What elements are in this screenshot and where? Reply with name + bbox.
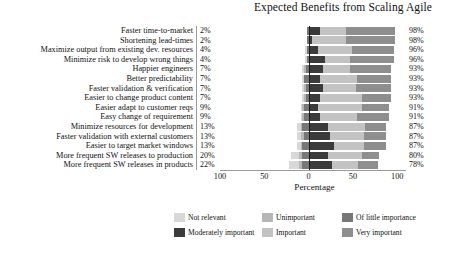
positive-total-label: 87% (405, 141, 461, 151)
chart-row: Easier adapt to customer reqs9%91% (0, 103, 461, 113)
plot-cell (220, 64, 405, 74)
bar-segment (350, 65, 391, 73)
zero-axis-line (309, 36, 310, 46)
legend-label: Of little importance (356, 213, 416, 222)
bar-segment (312, 36, 346, 44)
plot-cell (220, 26, 405, 36)
x-axis-tick: 100 (214, 172, 226, 181)
bar-segment (346, 36, 396, 44)
zero-axis-line (309, 132, 310, 142)
negative-total-label: 13% (196, 122, 220, 132)
category-label: Faster validation & verification (0, 84, 196, 94)
bar-segment (318, 46, 352, 54)
legend-label: Moderately important (188, 228, 254, 237)
legend-swatch (262, 213, 273, 222)
chart-row: Faster validation & verification7%93% (0, 84, 461, 94)
chart-row: More frequent SW releases in products22%… (0, 160, 461, 170)
bar-segment (320, 27, 346, 35)
zero-axis-line (309, 103, 310, 113)
positive-total-label: 96% (405, 55, 461, 65)
chart-legend: Not relevantUnimportantOf little importa… (174, 210, 442, 240)
negative-total-label: 4% (196, 55, 220, 65)
legend-item: Not relevant (174, 213, 262, 222)
plot-cell (220, 112, 405, 122)
legend-swatch (342, 228, 353, 237)
plot-cell (220, 55, 405, 65)
negative-total-label: 2% (196, 36, 220, 46)
bar-segment (362, 104, 389, 112)
negative-total-label: 2% (196, 26, 220, 36)
plot-cell (220, 74, 405, 84)
positive-total-label: 87% (405, 132, 461, 142)
plot-cell (220, 141, 405, 151)
category-label: Faster validation with external customer… (0, 132, 196, 142)
plot-cell (220, 160, 405, 170)
category-label: Happier engineers (0, 64, 196, 74)
stacked-bar (305, 56, 394, 64)
bar-segment (309, 123, 328, 131)
bar-segment (309, 94, 321, 102)
category-label: Easier adapt to customer reqs (0, 103, 196, 113)
negative-total-label: 7% (196, 93, 220, 103)
chart-row: Easier to target market windows13%87% (0, 141, 461, 151)
plot-cell (220, 45, 405, 55)
bar-segment (309, 142, 335, 150)
legend-swatch (342, 213, 353, 222)
legend-label: Unimportant (276, 213, 315, 222)
category-label: Easier to target market windows (0, 141, 196, 151)
chart-row: Easy change of requirement9%91% (0, 112, 461, 122)
positive-total-label: 87% (405, 122, 461, 132)
plot-cell (220, 84, 405, 94)
bar-segment (309, 75, 321, 83)
stacked-bar (297, 142, 386, 150)
zero-axis-line (309, 122, 310, 132)
stacked-bar (302, 75, 391, 83)
bar-segment (357, 113, 389, 121)
zero-axis-line (309, 84, 310, 94)
category-label: Shortening lead-times (0, 36, 196, 46)
bar-segment (309, 84, 323, 92)
chart-row: Shortening lead-times2%98% (0, 36, 461, 46)
plot-cell (220, 122, 405, 132)
bar-segment (309, 56, 325, 64)
plot-cell (220, 93, 405, 103)
zero-axis-line (309, 26, 310, 36)
bar-segment (350, 56, 393, 64)
stacked-bar (307, 36, 396, 44)
category-label: Faster time-to-market (0, 26, 196, 36)
negative-total-label: 7% (196, 74, 220, 84)
legend-item: Very important (342, 228, 442, 237)
legend-item: Important (262, 228, 342, 237)
positive-total-label: 93% (405, 84, 461, 94)
legend-item: Of little importance (342, 213, 442, 222)
bar-segment (309, 46, 319, 54)
chart-row: Better predictability7%93% (0, 74, 461, 84)
legend-swatch (174, 228, 185, 237)
legend-item: Moderately important (174, 228, 262, 237)
bar-segment (328, 123, 365, 131)
bar-segment (357, 75, 391, 83)
chart-row: Faster time-to-market2%98% (0, 26, 461, 36)
plot-cell (220, 103, 405, 113)
positive-total-label: 91% (405, 103, 461, 113)
bar-segment (356, 84, 391, 92)
bar-segment (346, 27, 396, 35)
zero-axis-line (309, 151, 310, 161)
chart-row: Faster validation with external customer… (0, 132, 461, 142)
x-axis-label: Percentage (223, 182, 406, 192)
category-label: More frequent SW releases in products (0, 160, 196, 170)
chart-row: Happier engineers7%93% (0, 64, 461, 74)
legend-label: Very important (356, 228, 402, 237)
bar-segment (323, 84, 357, 92)
bar-segment (328, 152, 362, 160)
positive-total-label: 98% (405, 36, 461, 46)
bar-segment (309, 152, 328, 160)
x-axis-tick: 50 (260, 172, 268, 181)
plot-cell (220, 36, 405, 46)
bar-segment (358, 161, 377, 169)
bar-segment (309, 104, 319, 112)
stacked-bar (301, 113, 390, 121)
zero-axis-line (309, 112, 310, 122)
zero-axis-line (309, 141, 310, 151)
bar-segment (320, 94, 362, 102)
